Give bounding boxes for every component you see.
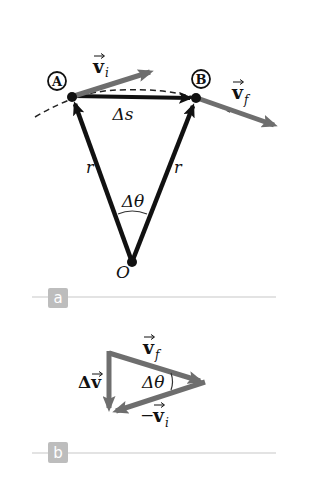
point-b-label: B [196, 72, 207, 87]
physics-diagram: A B v i v f Δs r r Δθ O a [0, 0, 312, 481]
point-a-dot [67, 92, 77, 102]
radius-vector-left [75, 104, 132, 262]
displacement-vector [74, 96, 190, 98]
panel-a: A B v i v f Δs r r Δθ O a [32, 54, 276, 309]
svg-text:i: i [105, 66, 109, 80]
r-right-label: r [174, 158, 183, 177]
panel-b-badge-text: b [53, 444, 63, 462]
ds-label: Δs [111, 104, 133, 124]
vi-label: v i [92, 54, 109, 81]
vf-triangle-label: v f [142, 335, 162, 363]
velocity-initial-vector [74, 72, 150, 96]
svg-text:f: f [154, 348, 162, 362]
dv-triangle-label: Δv [78, 372, 103, 393]
point-b-dot [191, 93, 201, 103]
origin-label: O [116, 262, 130, 282]
neg-vi-triangle-label: − v i [140, 403, 169, 431]
dtheta-label: Δθ [121, 191, 145, 211]
triangle-dtheta-label: Δθ [141, 372, 165, 392]
radius-vector-right [132, 106, 193, 262]
panel-b: v f Δv Δθ − v i b [32, 335, 276, 464]
svg-text:v: v [92, 55, 105, 77]
r-left-label: r [86, 158, 95, 177]
vf-label: v f [231, 80, 251, 108]
svg-text:v: v [152, 404, 165, 426]
svg-text:i: i [165, 416, 169, 430]
point-a-label: A [51, 74, 63, 89]
svg-text:f: f [243, 93, 251, 107]
triangle-angle-arc [171, 373, 173, 390]
svg-text:v: v [231, 81, 244, 103]
svg-text:Δv: Δv [78, 372, 102, 392]
panel-a-badge-text: a [53, 289, 62, 307]
svg-text:v: v [142, 336, 155, 358]
angle-arc [118, 211, 147, 214]
